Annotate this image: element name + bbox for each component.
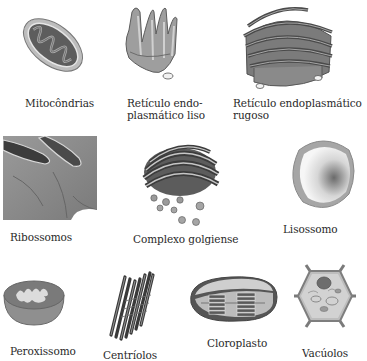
lysosome-illustration	[289, 136, 357, 212]
label-centriolos: Centríolos	[103, 349, 157, 361]
organelle-vacuolos: Vacúolos	[280, 255, 367, 361]
label-reticulo-liso-line1: Retículo endo-	[127, 97, 205, 109]
label-lisossomo: Lisossomo	[283, 223, 338, 235]
vacuoles-illustration	[294, 263, 356, 329]
organelle-centriolos: Centríolos	[95, 255, 185, 361]
centrioles-illustration	[103, 265, 159, 341]
peroxisome-illustration	[2, 275, 66, 327]
ribosomes-illustration	[3, 136, 97, 220]
rough-er-illustration	[236, 6, 336, 92]
label-reticulo-liso: Retículo endo- plasmático liso	[127, 97, 205, 121]
label-reticulo-rugoso: Retículo endoplasmático rugoso	[233, 97, 362, 121]
organelle-reticulo-liso: Retículo endo- plasmático liso	[110, 0, 220, 130]
mitochondria-illustration	[18, 10, 88, 80]
organelle-lisossomo: Lisossomo	[250, 130, 367, 255]
label-reticulo-liso-line2: plasmático liso	[127, 109, 205, 121]
organelle-mitocondrias: Mitocôndrias	[0, 0, 110, 115]
label-mitocondrias: Mitocôndrias	[25, 97, 94, 109]
organelle-complexo-golgiense: Complexo golgiense	[110, 130, 250, 255]
smooth-er-illustration	[124, 2, 184, 84]
label-reticulo-rugoso-line2: rugoso	[233, 109, 362, 121]
organelles-figure: Mitocôndrias Retículo endo- plasmático l…	[0, 0, 367, 361]
label-reticulo-rugoso-line1: Retículo endoplasmático	[233, 97, 362, 109]
organelle-ribossomos: Ribossomos	[0, 130, 110, 255]
organelle-reticulo-rugoso: Retículo endoplasmático rugoso	[220, 0, 367, 130]
label-vacuolos: Vacúolos	[302, 347, 348, 359]
label-ribossomos: Ribossomos	[10, 231, 72, 243]
organelle-cloroplasto: Cloroplasto	[185, 255, 280, 361]
chloroplast-illustration	[187, 273, 281, 323]
label-peroxissomo: Peroxissomo	[10, 345, 76, 357]
organelle-peroxissomo: Peroxissomo	[0, 255, 95, 361]
label-cloroplasto: Cloroplasto	[207, 337, 267, 349]
golgi-illustration	[138, 140, 222, 230]
label-complexo-golgiense: Complexo golgiense	[133, 233, 238, 245]
